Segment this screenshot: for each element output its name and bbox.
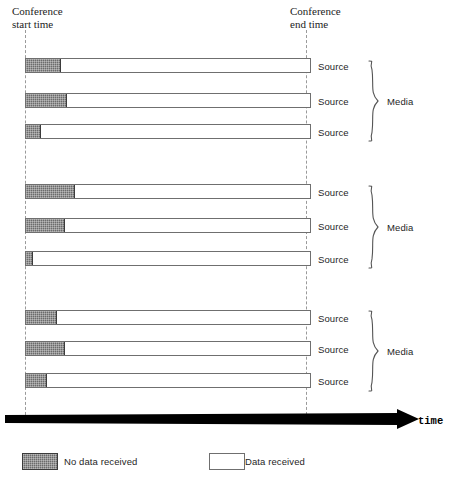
source-bar bbox=[25, 373, 311, 388]
legend-swatch-data bbox=[209, 453, 245, 470]
timeline-diagram: Conference start time Conference end tim… bbox=[0, 0, 450, 488]
legend-label-data: Data received bbox=[245, 456, 305, 467]
no-data-segment bbox=[26, 94, 67, 107]
conference-start-time-label: Conference start time bbox=[12, 5, 63, 30]
source-bar bbox=[25, 341, 311, 356]
no-data-segment bbox=[26, 252, 33, 265]
source-label: Source bbox=[318, 344, 349, 355]
source-bar bbox=[25, 124, 311, 139]
media-group-label: Media bbox=[387, 346, 413, 357]
source-bar bbox=[25, 251, 311, 266]
time-axis-label: time bbox=[418, 415, 443, 427]
source-bar bbox=[25, 93, 311, 108]
no-data-segment bbox=[26, 185, 75, 198]
source-label: Source bbox=[318, 221, 349, 232]
no-data-segment bbox=[26, 342, 65, 355]
time-axis-arrow bbox=[5, 409, 425, 429]
source-label: Source bbox=[318, 254, 349, 265]
no-data-segment bbox=[26, 311, 57, 324]
no-data-segment bbox=[26, 219, 65, 232]
source-label: Source bbox=[318, 313, 349, 324]
media-group-brace bbox=[366, 185, 382, 269]
legend-label-no-data: No data received bbox=[64, 456, 137, 467]
no-data-segment bbox=[26, 59, 61, 72]
source-label: Source bbox=[318, 187, 349, 198]
media-group-brace bbox=[366, 310, 382, 392]
media-group-label: Media bbox=[387, 222, 413, 233]
source-bar bbox=[25, 58, 311, 73]
source-label: Source bbox=[318, 96, 349, 107]
conference-end-time-label: Conference end time bbox=[290, 5, 341, 30]
legend-swatch-no-data bbox=[22, 453, 58, 470]
source-bar bbox=[25, 310, 311, 325]
source-bar bbox=[25, 218, 311, 233]
media-group-brace bbox=[366, 60, 382, 142]
source-label: Source bbox=[318, 61, 349, 72]
source-label: Source bbox=[318, 376, 349, 387]
source-label: Source bbox=[318, 127, 349, 138]
media-group-label: Media bbox=[387, 96, 413, 107]
no-data-segment bbox=[26, 374, 47, 387]
source-bar bbox=[25, 184, 311, 199]
no-data-segment bbox=[26, 125, 41, 138]
